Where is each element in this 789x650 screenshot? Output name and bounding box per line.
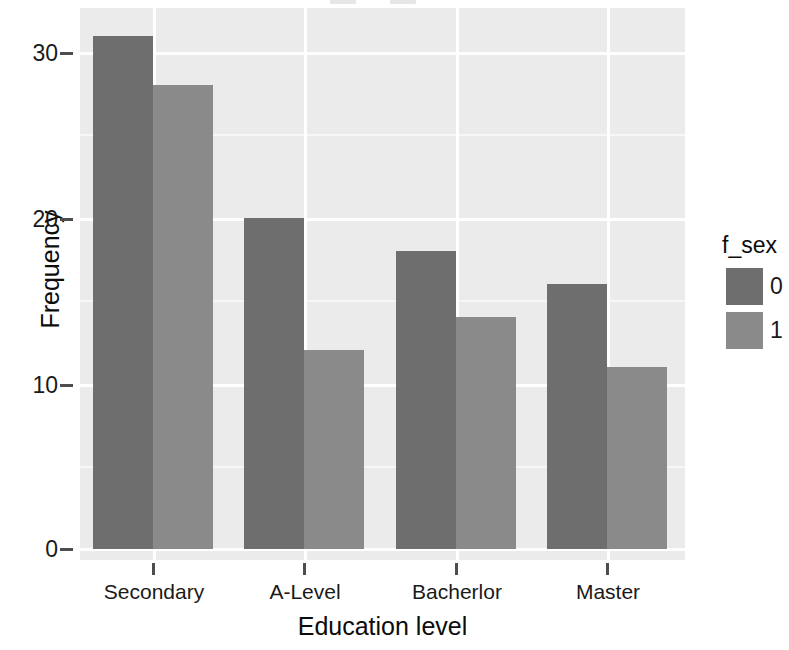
- legend-key-1: [726, 312, 763, 349]
- x-tick-label-a-level: A-Level: [269, 580, 340, 604]
- x-tick-mark: [303, 563, 306, 575]
- gridline-major: [80, 52, 685, 55]
- bar-master-0: [547, 284, 607, 549]
- bar-a-level-1: [304, 350, 364, 549]
- bar-bacherlor-0: [396, 251, 456, 549]
- chart-figure: Frequency 30 20 10 0: [0, 0, 789, 650]
- cropped-title-remnant: [330, 0, 450, 4]
- y-tick-mark: [60, 548, 73, 551]
- y-tick-mark: [60, 384, 73, 387]
- bar-secondary-1: [153, 85, 213, 549]
- x-tick-label-secondary: Secondary: [104, 580, 204, 604]
- y-tick-label: 20: [12, 208, 58, 231]
- bar-secondary-0: [93, 36, 153, 549]
- bar-master-1: [607, 367, 667, 549]
- legend-label-0: 0: [770, 268, 783, 305]
- x-tick-label-bacherlor: Bacherlor: [412, 580, 502, 604]
- x-tick-mark: [606, 563, 609, 575]
- legend-key-0: [726, 268, 763, 305]
- x-tick-label-master: Master: [576, 580, 640, 604]
- legend-title: f_sex: [722, 232, 777, 259]
- legend-label-1: 1: [770, 312, 783, 349]
- x-tick-mark: [455, 563, 458, 575]
- y-tick-label: 0: [12, 538, 58, 561]
- y-tick-label: 30: [12, 42, 58, 65]
- plot-panel: [80, 8, 685, 560]
- y-tick-mark: [60, 52, 73, 55]
- x-tick-mark: [152, 563, 155, 575]
- y-tick-mark: [60, 218, 73, 221]
- y-tick-label: 10: [12, 374, 58, 397]
- x-axis-title: Education level: [80, 612, 685, 641]
- bar-bacherlor-1: [456, 317, 516, 549]
- y-axis-ticks: 30 20 10 0: [6, 0, 58, 650]
- bar-a-level-0: [244, 218, 304, 549]
